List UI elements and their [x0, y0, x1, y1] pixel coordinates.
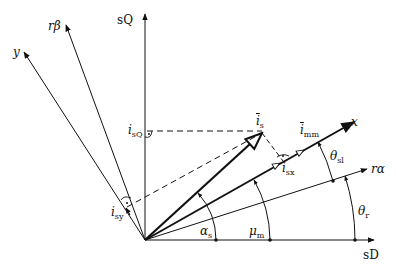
- theta-r-label: θr: [358, 205, 369, 220]
- y-axis: [24, 52, 145, 240]
- theta-sl-label: θsl: [330, 150, 344, 165]
- magnetizing-current-label: imm: [300, 124, 319, 139]
- stator-current-label: is: [256, 115, 264, 130]
- y-axis-label: y: [13, 46, 20, 58]
- r-beta-axis-label: rβ: [48, 20, 61, 32]
- phasor-diagram: [0, 0, 396, 271]
- mu-m-label: μm: [249, 225, 264, 240]
- isQ-label: isQ: [128, 124, 143, 139]
- isx-projection: [262, 133, 283, 161]
- isx-label: isx: [282, 162, 294, 177]
- x-axis-label: x: [351, 116, 358, 128]
- r-alpha-axis-label: rα: [371, 163, 385, 175]
- sQ-axis-label: sQ: [117, 14, 133, 26]
- isy-label: isy: [111, 206, 123, 221]
- theta-r-arc: [345, 176, 355, 240]
- sD-axis-label: sD: [363, 249, 379, 261]
- alpha-s-label: αs: [200, 225, 212, 240]
